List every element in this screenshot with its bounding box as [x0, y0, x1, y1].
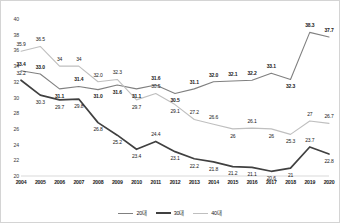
data-point-label: 30.5	[164, 97, 186, 103]
data-point-label: 29.7	[126, 104, 148, 110]
legend-item[interactable]: 30대	[156, 209, 184, 217]
data-point-label: 31.1	[49, 93, 71, 99]
data-point-label: 25.2	[106, 139, 128, 145]
y-axis-tick: 38	[3, 32, 19, 38]
legend-item[interactable]: 40대	[193, 209, 221, 217]
data-point-label: 26.8	[87, 126, 109, 132]
legend-label: 20대	[136, 209, 146, 217]
data-point-label: 22.8	[318, 158, 340, 164]
data-point-label: 37.7	[318, 27, 340, 33]
data-point-label: 33.0	[29, 64, 51, 70]
data-point-label: 33.1	[260, 63, 282, 69]
data-point-label: 31.1	[126, 93, 148, 99]
plot-area: 2022242628303234363840 20042005200620072…	[21, 13, 333, 186]
y-axis-tick: 40	[3, 16, 19, 22]
legend-line-swatch	[193, 213, 208, 214]
y-axis-tick: 26	[3, 126, 19, 132]
legend-line-swatch	[118, 213, 133, 214]
y-axis-tick: 28	[3, 110, 19, 116]
legend-line-swatch	[156, 212, 171, 214]
data-point-label: 32.3	[106, 69, 128, 75]
data-point-label: 26.6	[203, 114, 225, 120]
y-axis-tick: 32	[3, 79, 19, 85]
data-point-label: 24.4	[145, 131, 167, 137]
data-point-label: 31.6	[145, 75, 167, 81]
data-point-label: 21	[280, 172, 302, 178]
data-point-label: 32.2	[10, 70, 32, 76]
data-point-label: 34	[68, 56, 90, 62]
data-point-label: 25.3	[280, 138, 302, 144]
data-point-label: 36.5	[29, 36, 51, 42]
data-point-label: 23.4	[126, 153, 148, 159]
data-point-label: 32.3	[280, 83, 302, 89]
legend-label: 30대	[174, 209, 184, 217]
data-point-label: 29.8	[68, 103, 90, 109]
data-point-label: 26.7	[318, 113, 340, 119]
chart-container: 2022242628303234363840 20042005200620072…	[0, 0, 340, 223]
y-axis-tick: 24	[3, 142, 19, 148]
legend-label: 40대	[211, 209, 221, 217]
data-point-label: 26	[222, 133, 244, 139]
data-point-label: 26.1	[241, 118, 263, 124]
legend-item[interactable]: 20대	[118, 209, 146, 217]
chart-legend: 20대30대40대	[1, 209, 339, 217]
data-point-label: 23.1	[164, 155, 186, 161]
data-point-label: 23.7	[299, 137, 321, 143]
y-axis-tick: 30	[3, 95, 19, 101]
y-axis-tick: 36	[3, 47, 19, 53]
data-point-label: 30.5	[145, 83, 167, 89]
y-axis-tick: 22	[3, 157, 19, 163]
data-point-label: 32.2	[241, 70, 263, 76]
data-point-label: 31.1	[183, 79, 205, 85]
